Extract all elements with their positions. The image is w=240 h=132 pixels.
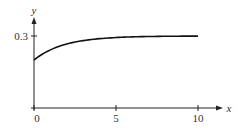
x-tick-label: 10 bbox=[193, 112, 205, 124]
x-axis-label: x bbox=[226, 102, 232, 114]
y-tick-label: 0.3 bbox=[14, 30, 28, 42]
x-axis-arrow-icon bbox=[216, 106, 223, 111]
x-tick-label: 0 bbox=[34, 112, 40, 124]
line-chart: 0.3 y 0 5 10 x bbox=[0, 0, 240, 132]
x-axis: 0 5 10 x bbox=[31, 102, 232, 124]
data-curve bbox=[34, 36, 198, 60]
x-tick-label: 5 bbox=[113, 112, 119, 124]
y-axis-arrow-icon bbox=[32, 17, 37, 24]
y-axis-label: y bbox=[31, 4, 37, 16]
y-axis: 0.3 y bbox=[14, 4, 37, 110]
